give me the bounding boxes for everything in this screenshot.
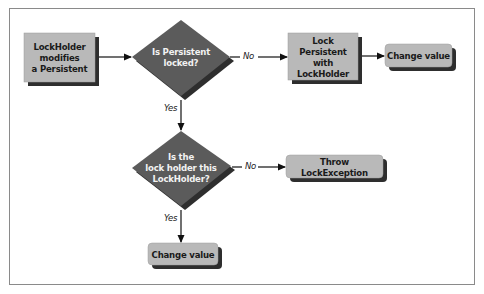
lock-persistent-label: Lock Persistent with LockHolder (288, 33, 358, 80)
change-value-1-label: Change value (385, 44, 452, 67)
edge-label-no-1: No (243, 51, 254, 61)
start-process-label: LockHolder modifies a Persistent (24, 33, 95, 82)
edge-label-yes-2: Yes (164, 213, 177, 223)
edge-label-no-2: No (245, 161, 256, 171)
change-value-2-label: Change value (148, 243, 218, 265)
decision1-label: Is Persistent locked? (137, 40, 225, 74)
edge-label-yes-1: Yes (164, 103, 177, 113)
throw-lock-exception-label: Throw LockException (286, 155, 383, 178)
decision2-label: Is the lock holder this LockHolder? (137, 148, 225, 186)
